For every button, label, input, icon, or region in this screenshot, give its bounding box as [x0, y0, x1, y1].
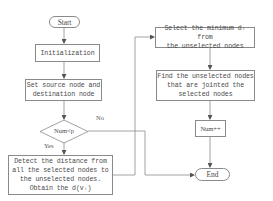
detect-distance-node: Detect the distance from all the selecte…: [8, 155, 113, 195]
start-node: Start: [49, 16, 80, 28]
decision-node-label: Num<p: [44, 127, 84, 134]
edge-label-yes: Yes: [44, 142, 53, 149]
select-minimum-node: Select the minimum dᵢ from the unselecte…: [155, 27, 255, 48]
edge-label-no: No: [96, 114, 104, 121]
edge-detect-select: [113, 37, 154, 175]
initialization-node: Initialization: [35, 44, 100, 62]
end-node: End: [195, 168, 230, 181]
increment-node: Num++: [195, 120, 226, 137]
flowchart-canvas: Start Initialization Set source node and…: [0, 0, 273, 201]
find-unselected-node: Find the unselected nodes that are joint…: [156, 70, 255, 101]
set-source-destination-node: Set source node and destination node: [25, 79, 102, 101]
